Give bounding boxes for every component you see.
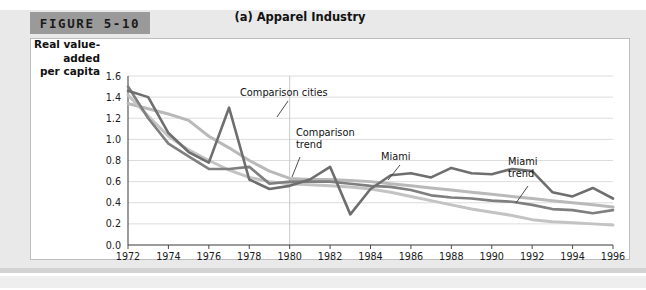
chart-card (30, 38, 630, 260)
y-axis-title-line-1: Real value- (22, 38, 100, 52)
y-axis-title-line-2: added (22, 52, 100, 66)
page-bottom-strip (0, 276, 646, 288)
y-axis-title: Real value- added per capita (22, 38, 100, 79)
page-panel-shadow (0, 268, 646, 273)
chart-title: (a) Apparel Industry (0, 10, 600, 24)
figure-root: FIGURE 5-10 (a) Apparel Industry Real va… (0, 0, 646, 290)
y-axis-title-line-3: per capita (22, 65, 100, 79)
